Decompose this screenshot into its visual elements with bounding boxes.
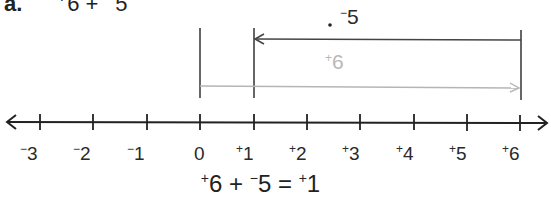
tick-label-minus-1: −1 bbox=[127, 142, 145, 164]
tick-label-plus-4: +4 bbox=[396, 142, 414, 164]
tick-label-plus-6: +6 bbox=[502, 142, 520, 164]
equation: +6 + −5 = +1 bbox=[0, 170, 521, 198]
tick-label-plus-5: +5 bbox=[449, 142, 467, 164]
eq-a-value: 6 bbox=[209, 170, 222, 197]
tick-label-minus-2: −2 bbox=[73, 142, 91, 164]
eq-result-value: 1 bbox=[307, 170, 320, 197]
tick-labels: −3 −2 −1 0 +1 +2 +3 +4 +5 +6 bbox=[20, 142, 520, 164]
tick-label-plus-2: +2 bbox=[289, 142, 307, 164]
tick-label-plus-1: +1 bbox=[236, 142, 254, 164]
stray-dot bbox=[328, 23, 332, 27]
eq-b-value: 5 bbox=[258, 170, 271, 197]
eq-a-sign: + bbox=[201, 170, 209, 186]
arrow-minus-five bbox=[255, 34, 521, 44]
tick-label-plus-3: +3 bbox=[342, 142, 360, 164]
eq-equals: = bbox=[278, 170, 292, 197]
arrow-plus-six bbox=[200, 83, 519, 92]
tick-label-minus-3: −3 bbox=[20, 142, 38, 164]
tick-label-zero: 0 bbox=[194, 143, 205, 164]
eq-operator: + bbox=[229, 170, 243, 197]
eq-result-sign: + bbox=[299, 170, 307, 186]
number-line bbox=[7, 114, 547, 131]
arrow-label-plus-six: +6 bbox=[325, 50, 344, 73]
eq-b-sign: − bbox=[250, 170, 258, 186]
arrow-label-minus-five: −5 bbox=[340, 5, 359, 28]
